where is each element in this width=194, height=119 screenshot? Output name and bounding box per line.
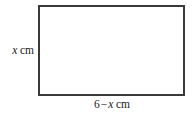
height-unit: cm [20, 44, 34, 56]
rectangle-diagram: xcm 6−xcm [0, 0, 194, 119]
width-label: 6−xcm [0, 99, 194, 111]
height-label: xcm [12, 45, 34, 57]
rectangle-shape [38, 5, 185, 96]
width-constant: 6 [94, 98, 100, 110]
width-operator: − [100, 98, 109, 110]
height-variable: x [12, 44, 17, 56]
width-unit: cm [116, 98, 130, 110]
width-variable: x [108, 98, 113, 110]
